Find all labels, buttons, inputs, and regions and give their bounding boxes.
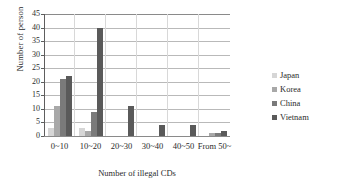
x-axis-tick-label: 10~20 — [80, 141, 102, 151]
x-axis-tick-label: 20~30 — [111, 141, 133, 151]
gridline — [44, 136, 230, 137]
bar-group: 20~30 — [106, 14, 137, 136]
x-axis-title: Number of illegal CDs — [44, 168, 230, 178]
y-axis-title: Number of person — [15, 0, 25, 99]
y-axis-tick-label: 20 — [32, 78, 40, 86]
legend-label: Japan — [280, 71, 299, 80]
legend-item-korea[interactable]: Korea — [272, 82, 309, 96]
bar-chart: Number of person 051015202530354045 0~10… — [0, 0, 350, 191]
bar-group: 40~50 — [168, 14, 199, 136]
bar-vietnam — [97, 28, 103, 136]
legend-swatch-icon — [272, 115, 277, 120]
y-axis-tick-label: 0 — [36, 132, 40, 140]
bar-group: 0~10 — [44, 14, 75, 136]
x-axis-tick-label: From 50~ — [198, 141, 232, 151]
legend: JapanKoreaChinaVietnam — [272, 68, 309, 124]
plot-area: 051015202530354045 0~1010~2020~3030~4040… — [44, 14, 230, 136]
y-axis-tick-label: 15 — [32, 91, 40, 99]
legend-swatch-icon — [272, 73, 277, 78]
x-axis-tick-label: 40~50 — [173, 141, 195, 151]
bar-vietnam — [66, 76, 72, 136]
legend-swatch-icon — [272, 101, 277, 106]
x-axis-tick-label: 30~40 — [142, 141, 164, 151]
y-axis-tick-label: 30 — [32, 51, 40, 59]
bar-vietnam — [190, 125, 196, 136]
bar-group: From 50~ — [199, 14, 230, 136]
legend-item-vietnam[interactable]: Vietnam — [272, 110, 309, 124]
legend-item-japan[interactable]: Japan — [272, 68, 309, 82]
y-axis-tick-label: 10 — [32, 105, 40, 113]
y-axis-tick-label: 35 — [32, 37, 40, 45]
bar-vietnam — [159, 125, 165, 136]
y-axis-tick-label: 40 — [32, 24, 40, 32]
bar-groups: 0~1010~2020~3030~4040~50From 50~ — [44, 14, 230, 136]
y-axis-tick-label: 45 — [32, 10, 40, 18]
legend-label: Vietnam — [280, 113, 309, 122]
y-axis-tick-label: 5 — [36, 118, 40, 126]
y-axis-tick-mark — [41, 136, 44, 137]
y-axis-tick-label: 25 — [32, 64, 40, 72]
legend-label: Korea — [280, 85, 301, 94]
bar-group: 30~40 — [137, 14, 168, 136]
bar-vietnam — [221, 131, 227, 136]
plot-canvas: 051015202530354045 0~1010~2020~3030~4040… — [44, 14, 230, 136]
x-axis-tick-label: 0~10 — [51, 141, 68, 151]
bar-vietnam — [128, 106, 134, 136]
legend-label: China — [280, 99, 300, 108]
bar-group: 10~20 — [75, 14, 106, 136]
legend-item-china[interactable]: China — [272, 96, 309, 110]
legend-swatch-icon — [272, 87, 277, 92]
